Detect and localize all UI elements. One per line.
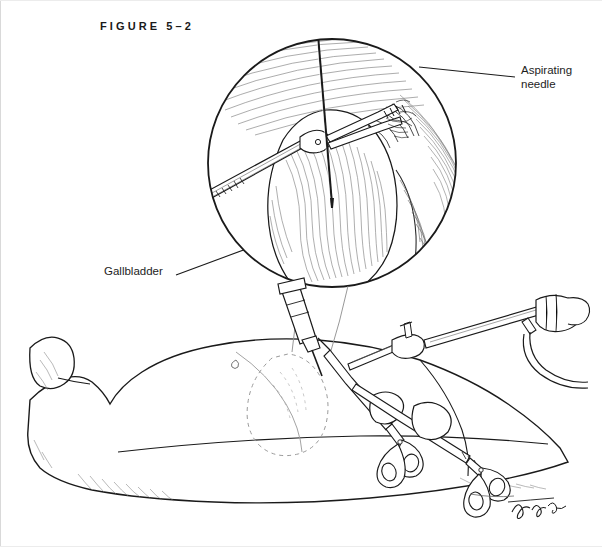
fiberoptic-light-cable	[530, 332, 588, 382]
illustration-canvas	[0, 0, 602, 547]
syringe-flange	[278, 278, 306, 294]
label-aspirating-needle: Aspirating needle	[521, 64, 572, 91]
syringe-barrel	[282, 288, 316, 344]
magnified-inset	[205, 36, 462, 308]
right-handle-pivot	[479, 468, 483, 472]
leader-line-aspirating-needle	[419, 67, 515, 77]
laparoscope-shaft	[424, 306, 542, 348]
label-gallbladder: Gallbladder	[104, 265, 163, 279]
fiberoptic-light-cable-edge	[523, 334, 588, 388]
upper-cannula-valve-housing	[392, 335, 424, 359]
figure-root: FIGURE 5–2	[0, 0, 602, 547]
eyepiece-cup	[568, 298, 590, 325]
left-handle-pivot	[398, 440, 402, 444]
light-post	[522, 318, 536, 334]
